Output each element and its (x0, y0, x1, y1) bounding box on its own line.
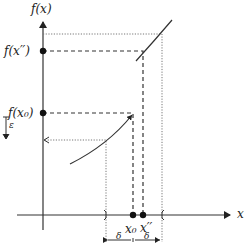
curve-lower-branch (70, 115, 132, 164)
point-x0 (130, 212, 136, 218)
point-f-x0 (40, 110, 46, 116)
curve-upper-branch (136, 20, 172, 61)
f-xpp-label: f(x′′) (4, 45, 30, 57)
diagram-canvas: f(x) x f(x′′) f(x₀) x₀ x′′ ε δ δ (0, 0, 246, 245)
delta-right-label: δ (144, 232, 149, 241)
dashed-f-xpp-guide (43, 51, 143, 215)
f-x0-label: f(x₀) (8, 107, 33, 119)
epsilon-label: ε (9, 121, 14, 130)
dotted-upper-guide (43, 34, 162, 242)
delta-left-label: δ (116, 232, 121, 241)
point-f-xpp (40, 48, 46, 54)
dotted-lower-guide (44, 137, 106, 242)
diagram-svg (0, 0, 246, 245)
x-axis-label: x (237, 208, 244, 220)
point-xpp (140, 212, 146, 218)
y-axis-label: f(x) (31, 3, 52, 15)
x0-label: x₀ (125, 223, 137, 235)
